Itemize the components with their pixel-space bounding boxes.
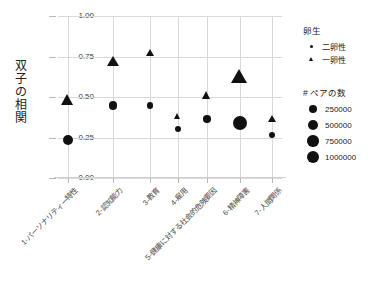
legend-item-label: 一卵性 [322,54,346,65]
x-tick-mark [68,178,69,183]
y-tick-mark [49,178,56,179]
gridline [272,16,273,178]
gridline [58,138,282,139]
triangle-marker-icon [303,57,319,61]
gridline [58,57,282,58]
data-point-circle [175,126,181,132]
legend-size-item[interactable]: 750000 [303,133,377,149]
legend-size-label: 750000 [325,137,352,146]
legend-size-label: 1000000 [325,153,356,162]
legend-pair-count: # ペアの数 2500005000007500001000000 [303,88,377,165]
data-point-triangle [231,69,247,83]
data-point-triangle [146,49,154,56]
legend-pair-count-title: # ペアの数 [303,88,377,98]
data-point-circle [109,101,118,110]
gridline [178,16,179,178]
data-point-circle [63,135,73,145]
data-point-circle [233,116,247,130]
circle-marker-icon [303,105,323,114]
legend-size-label: 250000 [325,105,352,114]
x-tick-mark [240,178,241,183]
circle-marker-icon [303,135,323,146]
y-tick-mark [49,97,56,98]
data-point-triangle [174,113,180,119]
y-axis-title: 双子の相関 [14,60,28,125]
chart-root: 双子の相関 0.000.250.500.751.00 1-パーソナリティー特性2… [0,0,377,300]
data-point-circle [203,115,211,123]
legend-zygosity: 卵生 二卵性 一卵性 [303,26,377,66]
gridline [150,16,151,178]
x-tick-mark [113,178,114,183]
y-tick-mark [49,138,56,139]
gridline [58,16,282,17]
legend-size-label: 500000 [325,121,352,130]
data-point-triangle [107,56,119,66]
x-tick-mark [207,178,208,183]
gridline [240,16,241,178]
legend-item-monozygotic[interactable]: 一卵性 [303,53,377,65]
circle-marker-icon [303,120,323,130]
legend-zygosity-title: 卵生 [303,26,377,36]
data-point-triangle [202,91,210,99]
legend-item-label: 二卵性 [322,41,346,52]
x-tick-mark [178,178,179,183]
x-axis-line [54,177,286,178]
legend-pair-count-rows: 2500005000007500001000000 [303,101,377,165]
legend-item-dizygotic[interactable]: 二卵性 [303,40,377,52]
x-tick-mark [150,178,151,183]
y-tick-mark [49,57,56,58]
legend-size-item[interactable]: 500000 [303,117,377,133]
legend-size-item[interactable]: 1000000 [303,149,377,165]
circle-marker-icon [303,45,319,48]
gridline [113,16,114,178]
gridline [58,178,282,179]
gridline [58,97,282,98]
y-tick-mark [49,16,56,17]
plot-area [58,16,282,178]
data-point-circle [147,102,154,109]
legend-size-item[interactable]: 250000 [303,101,377,117]
x-tick-mark [272,178,273,183]
circle-marker-icon [303,151,323,163]
data-point-triangle [268,115,276,122]
data-point-triangle [61,94,73,105]
